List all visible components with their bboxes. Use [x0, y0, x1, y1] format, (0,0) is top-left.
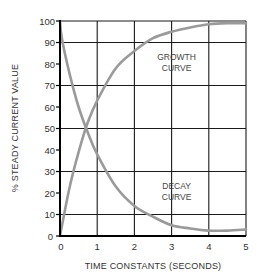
y-tick-labels: 0102030405060708090100: [39, 16, 55, 242]
x-axis-label: TIME CONSTANTS (SECONDS): [85, 261, 222, 271]
annotation-text: GROWTH: [157, 52, 196, 62]
y-tick-label: 60: [44, 102, 55, 113]
y-tick-label: 20: [44, 188, 55, 199]
x-tick-label: 5: [243, 241, 248, 252]
y-tick-label: 10: [44, 209, 55, 220]
y-tick-label: 0: [48, 231, 53, 242]
x-tick-label: 0: [58, 241, 63, 252]
y-tick-label: 30: [44, 166, 55, 177]
y-tick-label: 80: [44, 59, 55, 70]
annotation-text: CURVE: [162, 63, 192, 73]
y-tick-label: 70: [44, 80, 55, 91]
chart: 0102030405060708090100 012345 GROWTHCURV…: [0, 0, 257, 275]
grid: [60, 21, 246, 236]
y-tick-label: 50: [44, 123, 55, 134]
x-tick-labels: 012345: [58, 241, 248, 252]
x-tick-label: 2: [132, 241, 137, 252]
x-tick-label: 4: [206, 241, 211, 252]
annotation-text: DECAY: [162, 181, 191, 191]
curve-annotations: GROWTHCURVEDECAYCURVE: [157, 52, 196, 202]
y-tick-label: 90: [44, 37, 55, 48]
annotation-text: CURVE: [162, 192, 192, 202]
x-tick-label: 3: [169, 241, 174, 252]
y-tick-label: 100: [39, 16, 55, 27]
y-axis-label: % STEADY CURRENT VALUE: [10, 64, 20, 192]
y-tick-label: 40: [44, 145, 55, 156]
x-tick-label: 1: [95, 241, 100, 252]
